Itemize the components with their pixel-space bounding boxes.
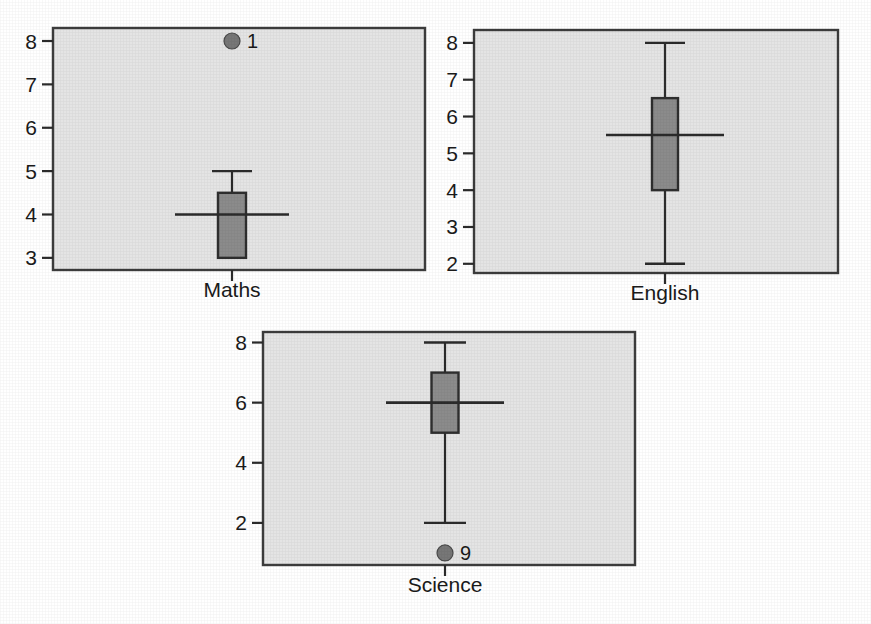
outlier-marker-maths-0 xyxy=(224,33,240,49)
panels-layer: 3456781Maths2345678English24689Science xyxy=(25,28,838,596)
boxplot-canvas: 3456781Maths2345678English24689Science xyxy=(0,0,871,624)
y-tick-label-maths-7: 7 xyxy=(25,73,37,96)
y-tick-label-maths-8: 8 xyxy=(25,30,37,53)
x-axis-label-english: English xyxy=(631,281,700,304)
boxplot-panel-science: 24689Science xyxy=(235,331,635,596)
y-tick-label-maths-4: 4 xyxy=(25,203,37,226)
y-tick-label-science-6: 6 xyxy=(235,391,247,414)
y-tick-label-english-7: 7 xyxy=(446,68,458,91)
outlier-label-science-0: 9 xyxy=(460,542,471,564)
box-english xyxy=(652,98,678,190)
y-tick-label-english-6: 6 xyxy=(446,105,458,128)
x-axis-label-science: Science xyxy=(408,573,483,596)
boxplot-figure: 3456781Maths2345678English24689Science xyxy=(0,0,871,624)
y-tick-label-maths-3: 3 xyxy=(25,246,37,269)
outlier-label-maths-0: 1 xyxy=(247,30,258,52)
y-tick-label-english-8: 8 xyxy=(446,31,458,54)
y-tick-label-maths-5: 5 xyxy=(25,160,37,183)
x-axis-label-maths: Maths xyxy=(203,278,260,301)
y-tick-label-english-5: 5 xyxy=(446,142,458,165)
y-tick-label-english-2: 2 xyxy=(446,252,458,275)
y-tick-label-maths-6: 6 xyxy=(25,116,37,139)
y-tick-label-english-3: 3 xyxy=(446,215,458,238)
panel-background-science xyxy=(263,332,635,565)
box-maths xyxy=(218,193,246,258)
y-tick-label-science-2: 2 xyxy=(235,511,247,534)
boxplot-panel-english: 2345678English xyxy=(446,30,838,304)
boxplot-panel-maths: 3456781Maths xyxy=(25,28,425,301)
y-tick-label-english-4: 4 xyxy=(446,179,458,202)
outlier-marker-science-0 xyxy=(437,545,453,561)
y-tick-label-science-8: 8 xyxy=(235,331,247,354)
y-tick-label-science-4: 4 xyxy=(235,451,247,474)
